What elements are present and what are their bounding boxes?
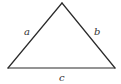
side-a <box>8 3 62 68</box>
side-b <box>62 3 115 68</box>
side-b-label: b <box>94 26 100 37</box>
side-a-label: a <box>24 26 30 37</box>
triangle-diagram: a b c <box>0 0 121 84</box>
side-c-label: c <box>59 72 65 83</box>
